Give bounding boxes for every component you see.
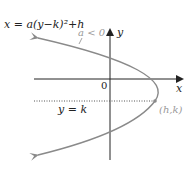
parabola-diagram: x = a(y−k)²+h a < 0 y x 0 y = k (h,k) [0,0,188,171]
y-axis-label: y [116,26,124,39]
condition-label: a < 0 [78,27,106,38]
line-y-equals-k-label: y = k [57,103,87,116]
vertex-point [153,99,157,103]
condition-leader [79,38,82,44]
parabola-curve [38,38,158,155]
equation-label: x = a(y−k)²+h [4,18,84,31]
vertex-label: (h,k) [159,104,183,115]
origin-label: 0 [101,80,107,91]
x-axis-label: x [176,82,183,95]
